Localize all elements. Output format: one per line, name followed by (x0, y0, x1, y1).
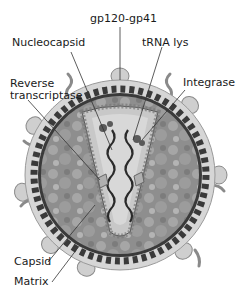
label-gp120-gp41: gp120-gp41 (90, 12, 157, 25)
label-matrix: Matrix (14, 275, 49, 288)
label-nucleocapsid: Nucleocapsid (12, 36, 85, 49)
label-reverse-transcriptase-line2: transcriptase (10, 89, 82, 102)
label-capsid: Capsid (14, 255, 51, 268)
label-integrase: Integrase (183, 76, 235, 89)
label-trna-lys: tRNA lys (142, 36, 189, 49)
